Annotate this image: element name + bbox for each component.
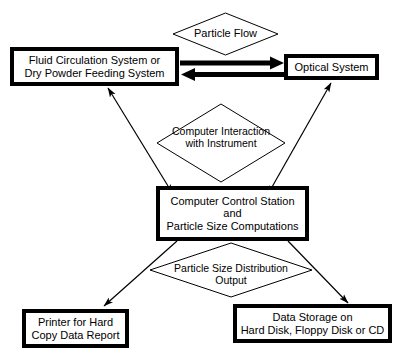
diamond-particle-size-output-line2: Output <box>151 275 311 287</box>
node-computer-control-station-line2: and <box>223 207 241 220</box>
node-computer-control-station[interactable]: Computer Control Station and Particle Si… <box>156 186 309 241</box>
diamond-particle-flow-line1: Particle Flow <box>173 27 278 39</box>
node-optical-system-line1: Optical System <box>295 61 369 74</box>
node-computer-control-station-body: Computer Control Station and Particle Si… <box>159 189 306 238</box>
diamond-computer-interaction-label: Computer Interaction with Instrument <box>141 126 301 150</box>
diamond-computer-interaction-outline <box>157 104 285 182</box>
node-fluid-circulation-system[interactable]: Fluid Circulation System or Dry Powder F… <box>10 47 179 86</box>
node-printer-body: Printer for Hard Copy Data Report <box>25 312 126 345</box>
diamond-particle-flow-outline <box>173 13 278 55</box>
computer-fluid-interaction-arrow <box>108 88 168 186</box>
node-optical-system[interactable]: Optical System <box>284 54 379 80</box>
diamond-particle-size-output-outline <box>150 243 312 297</box>
node-data-storage-line1: Data Storage on <box>272 311 352 324</box>
node-fluid-circulation-system-line1: Fluid Circulation System or <box>29 54 160 67</box>
node-computer-control-station-line1: Computer Control Station <box>170 195 294 208</box>
node-computer-control-station-line3: Particle Size Computations <box>166 220 298 233</box>
output-to-storage-arrow <box>288 241 348 303</box>
computer-optical-interaction-arrow <box>272 83 331 187</box>
diamond-computer-interaction-line1: Computer Interaction <box>141 126 301 138</box>
diamond-particle-size-output-label: Particle Size Distribution Output <box>151 263 311 287</box>
node-fluid-circulation-system-line2: Dry Powder Feeding System <box>25 67 165 80</box>
node-printer[interactable]: Printer for Hard Copy Data Report <box>22 309 129 348</box>
node-fluid-circulation-system-body: Fluid Circulation System or Dry Powder F… <box>13 50 176 83</box>
diamond-particle-flow-label: Particle Flow <box>173 27 278 39</box>
diamond-computer-interaction-line2: with Instrument <box>141 138 301 150</box>
node-printer-line1: Printer for Hard <box>38 316 113 329</box>
node-optical-system-body: Optical System <box>287 57 376 77</box>
node-data-storage-body: Data Storage on Hard Disk, Floppy Disk o… <box>236 307 389 340</box>
output-to-printer-arrow <box>104 241 177 306</box>
flowchart-diagram: Particle Flow Computer Interaction with … <box>0 0 405 361</box>
node-data-storage-line2: Hard Disk, Floppy Disk or CD <box>241 324 385 337</box>
diamond-particle-size-output-line1: Particle Size Distribution <box>151 263 311 275</box>
particle-flow-return-arrow <box>181 68 284 81</box>
particle-flow-forward-arrow <box>180 57 284 70</box>
node-printer-line2: Copy Data Report <box>31 329 119 342</box>
node-data-storage[interactable]: Data Storage on Hard Disk, Floppy Disk o… <box>233 304 392 343</box>
